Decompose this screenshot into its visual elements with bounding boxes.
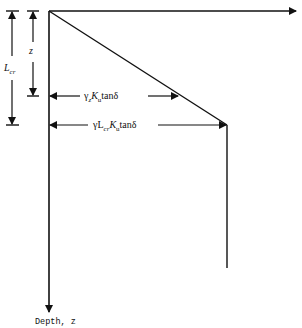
lcr-dimension-label: Lcr xyxy=(4,63,15,76)
stress-at-lcr-label: γLcrKutanδ xyxy=(93,120,136,133)
z-dimension-label: z xyxy=(29,46,33,56)
stress-profile-linear xyxy=(49,11,227,125)
diagram-canvas xyxy=(0,0,302,328)
stress-at-z-label: γzKutanδ xyxy=(84,91,118,104)
depth-axis-label: Depth, z xyxy=(35,318,76,327)
